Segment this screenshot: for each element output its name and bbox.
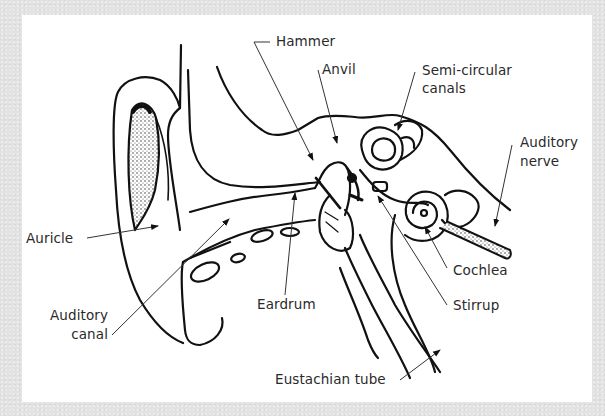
label-eustachian-tube: Eustachian tube: [275, 371, 386, 388]
label-auricle: Auricle: [26, 230, 73, 247]
label-auditory-nerve-line2: nerve: [520, 153, 559, 170]
auditory-nerve: [440, 222, 511, 258]
label-stirrup: Stirrup: [453, 297, 499, 314]
label-auditory-canal-line2: canal: [30, 326, 108, 343]
label-semicircular-line2: canals: [422, 80, 466, 97]
label-hammer: Hammer: [276, 33, 335, 50]
concha-stipple: [128, 104, 158, 230]
label-anvil: Anvil: [322, 61, 356, 78]
label-auditory-canal-line1: Auditory: [30, 307, 108, 324]
label-auditory-nerve-line1: Auditory: [520, 134, 578, 151]
ear-anatomy-drawing: [0, 0, 605, 416]
label-cochlea: Cochlea: [453, 262, 508, 279]
label-eardrum: Eardrum: [257, 296, 316, 313]
label-semicircular-line1: Semi-circular: [422, 62, 512, 79]
cochlea-spiral: [405, 192, 448, 241]
